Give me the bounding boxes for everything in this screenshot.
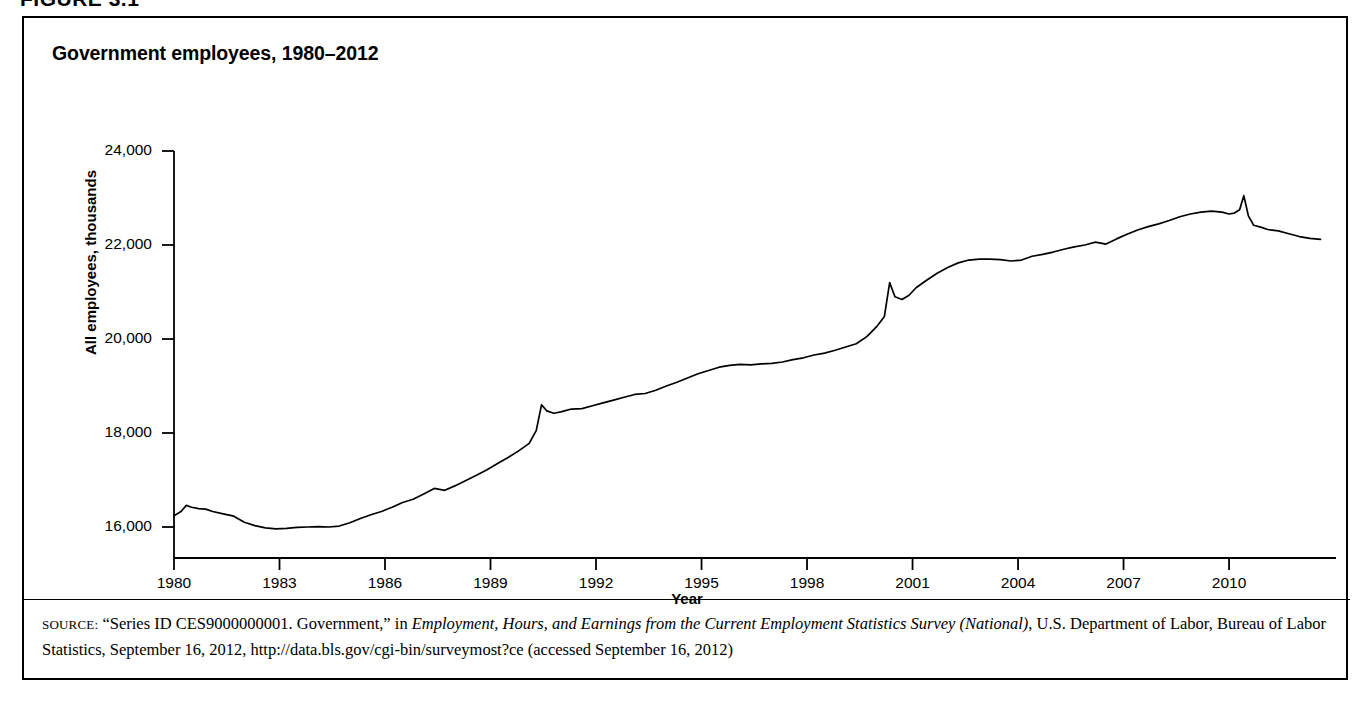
chart-series-layer bbox=[174, 196, 1320, 529]
y-tick-label: 20,000 bbox=[52, 329, 152, 347]
x-tick-label: 1992 bbox=[546, 574, 646, 592]
x-tick-label: 2010 bbox=[1179, 574, 1279, 592]
y-tick-label: 16,000 bbox=[52, 517, 152, 535]
figure-page: FIGURE 3.1 Government employees, 1980–20… bbox=[0, 0, 1370, 701]
x-tick-label: 1998 bbox=[757, 574, 857, 592]
source-divider bbox=[24, 599, 1350, 600]
source-text-after-title: , bbox=[1028, 614, 1032, 633]
chart-axes bbox=[162, 151, 1336, 570]
x-tick-label: 2004 bbox=[968, 574, 1068, 592]
x-tick-label: 1986 bbox=[335, 574, 435, 592]
line-chart-svg bbox=[24, 18, 1350, 618]
x-tick-label: 1995 bbox=[652, 574, 752, 592]
x-tick-label: 2001 bbox=[863, 574, 963, 592]
chart-plot-area: All employees, thousands Year 16,00018,0… bbox=[24, 18, 1350, 618]
source-publication-title: Employment, Hours, and Earnings from the… bbox=[412, 614, 1029, 633]
figure-box: Government employees, 1980–2012 All empl… bbox=[22, 16, 1348, 680]
y-tick-label: 18,000 bbox=[52, 423, 152, 441]
x-tick-label: 2007 bbox=[1074, 574, 1174, 592]
source-text-lead: “Series ID CES9000000001. Government,” i… bbox=[98, 614, 411, 633]
y-tick-label: 24,000 bbox=[52, 141, 152, 159]
source-note: SOURCE: “Series ID CES9000000001. Govern… bbox=[42, 611, 1337, 662]
figure-number-label: FIGURE 3.1 bbox=[20, 0, 139, 7]
x-tick-label: 1989 bbox=[441, 574, 541, 592]
y-tick-label: 22,000 bbox=[52, 235, 152, 253]
x-tick-label: 1983 bbox=[230, 574, 330, 592]
source-kicker: SOURCE: bbox=[42, 617, 98, 632]
x-tick-label: 1980 bbox=[124, 574, 224, 592]
